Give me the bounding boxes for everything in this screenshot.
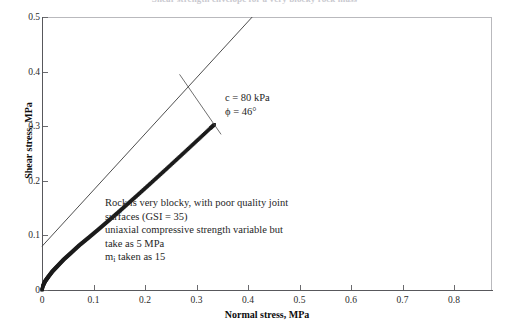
leader-line-group (180, 74, 222, 134)
data-layer (0, 0, 509, 327)
description-line-4: take as 5 MPa (105, 237, 288, 251)
description-line-1: Rock is very blocky, with poor quality j… (105, 196, 288, 210)
annotation-friction-angle: ϕ = 46° (225, 105, 270, 119)
description-line-3: uniaxial compressive strength variable b… (105, 223, 288, 237)
annotation-rock-mass-description: Rock is very blocky, with poor quality j… (105, 196, 288, 267)
description-line-2: surfaces (GSI = 35) (105, 210, 288, 224)
annotation-mohr-coulomb-parameters: c = 80 kPa ϕ = 46° (225, 91, 270, 119)
shear-strength-chart: Shear strength envelope for a very block… (0, 0, 509, 327)
parameter-leader-line (180, 74, 222, 134)
description-line-5: mi taken as 15 (105, 250, 288, 267)
mi-suffix: taken as 15 (115, 251, 165, 262)
annotation-cohesion: c = 80 kPa (225, 91, 270, 105)
mi-prefix: m (105, 251, 113, 262)
